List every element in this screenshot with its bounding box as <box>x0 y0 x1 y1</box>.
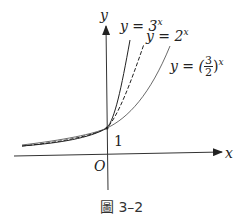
x-axis-label: x <box>225 146 233 160</box>
intercept-label: 1 <box>114 134 123 148</box>
exponential-graph-figure: y x O 1 y = 3x y = 2x y = (32)x 圖 3–2 <box>0 0 238 222</box>
graph-canvas <box>0 0 238 222</box>
x-axis <box>14 152 222 156</box>
origin-label: O <box>94 159 105 173</box>
curve-3-2-pow-x <box>22 46 170 145</box>
intercept-point <box>106 127 109 130</box>
curve-3-pow-x <box>22 40 130 146</box>
y-axis-label: y <box>100 8 108 22</box>
curve-label-3-2-pow-x: y = (32)x <box>170 55 224 78</box>
y-axis <box>106 26 108 190</box>
curve-label-2-pow-x: y = 2x <box>146 28 189 43</box>
figure-caption: 圖 3–2 <box>100 196 143 216</box>
curve-2-pow-x <box>22 44 144 146</box>
